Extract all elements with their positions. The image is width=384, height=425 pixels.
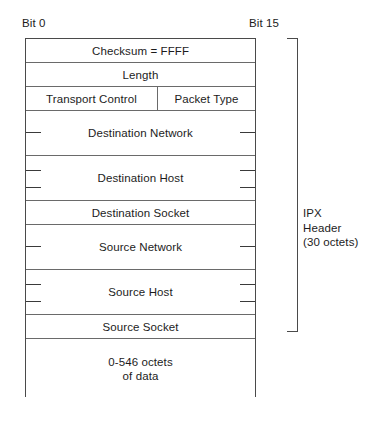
ipx-packet-format-diagram: Bit 0 Bit 15 Checksum = FFFF Length Tran… — [0, 0, 384, 425]
field-label-destination-network: Destination Network — [88, 126, 193, 140]
field-label-packet-type: Packet Type — [174, 92, 238, 106]
continuation-tick-icon — [26, 284, 41, 285]
field-label-length: Length — [123, 68, 159, 82]
field-row-checksum: Checksum = FFFF — [26, 39, 255, 63]
field-label-checksum: Checksum = FFFF — [92, 44, 189, 58]
continuation-tick-icon — [240, 246, 255, 247]
continuation-tick-icon — [240, 301, 255, 302]
field-row-transport-control-packet-type: Transport Control Packet Type — [26, 87, 255, 111]
field-label-destination-socket: Destination Socket — [92, 206, 190, 220]
ipx-header-bracket-label: IPX Header (30 octets) — [303, 206, 358, 250]
field-label-source-network: Source Network — [99, 240, 182, 254]
field-row-source-socket: Source Socket — [26, 315, 255, 339]
field-cell-packet-type: Packet Type — [158, 87, 255, 110]
field-row-data: 0-546 octets of data — [26, 339, 255, 399]
bit-0-label: Bit 0 — [22, 16, 46, 30]
continuation-tick-icon — [240, 187, 255, 188]
continuation-tick-icon — [240, 132, 255, 133]
field-row-source-network: Source Network — [26, 225, 255, 270]
field-row-destination-network: Destination Network — [26, 111, 255, 156]
packet-field-box: Checksum = FFFF Length Transport Control… — [25, 38, 256, 397]
field-label-destination-host: Destination Host — [98, 171, 184, 185]
bit-15-label: Bit 15 — [249, 16, 279, 30]
field-label-source-host: Source Host — [108, 285, 172, 299]
field-row-destination-host: Destination Host — [26, 156, 255, 201]
continuation-tick-icon — [26, 187, 41, 188]
field-row-source-host: Source Host — [26, 270, 255, 315]
ipx-header-bracket — [287, 38, 298, 332]
field-cell-transport-control: Transport Control — [26, 87, 158, 110]
continuation-tick-icon — [240, 284, 255, 285]
continuation-tick-icon — [240, 170, 255, 171]
continuation-tick-icon — [26, 246, 41, 247]
field-row-destination-socket: Destination Socket — [26, 201, 255, 225]
continuation-tick-icon — [26, 301, 41, 302]
field-row-length: Length — [26, 63, 255, 87]
field-label-transport-control: Transport Control — [46, 92, 137, 106]
field-label-data: 0-546 octets of data — [108, 355, 173, 383]
continuation-tick-icon — [26, 170, 41, 171]
field-label-source-socket: Source Socket — [102, 320, 178, 334]
continuation-tick-icon — [26, 132, 41, 133]
